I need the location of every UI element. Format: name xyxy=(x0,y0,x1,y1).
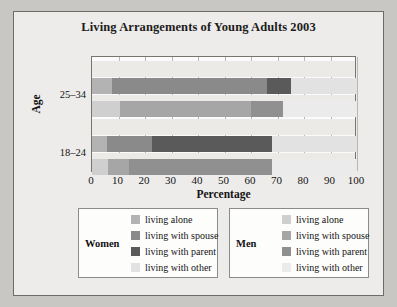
x-tick-60: 60 xyxy=(245,174,256,186)
legend-swatch-living-alone xyxy=(131,215,140,224)
bar-segment-living-with-parent xyxy=(129,159,272,175)
bar-segment-living-alone xyxy=(92,159,108,175)
legend-swatch-living-with-parent xyxy=(131,247,140,256)
plot-area xyxy=(91,56,356,172)
chart-figure: Living Arrangements of Young Adults 2003… xyxy=(13,11,384,296)
bar-18-24-men xyxy=(92,159,357,175)
y-tick-label-25-34: 25–34 xyxy=(42,89,86,100)
legend-label: living alone xyxy=(296,214,344,225)
y-tick-label-18-24: 18–24 xyxy=(42,147,86,158)
bar-segment-living-alone xyxy=(92,78,112,94)
legend-label: living with parent xyxy=(145,246,216,257)
x-tick-40: 40 xyxy=(192,174,203,186)
legend-label: living with other xyxy=(296,262,363,273)
bar-segment-living-with-other xyxy=(283,101,357,117)
legend-item: living with other xyxy=(282,260,369,275)
legend-label: living alone xyxy=(145,214,193,225)
x-tick-20: 20 xyxy=(139,174,150,186)
bar-segment-living-with-parent xyxy=(152,136,273,152)
legend-label: living with parent xyxy=(296,246,367,257)
row-band-2 xyxy=(92,119,355,135)
x-tick-70: 70 xyxy=(271,174,282,186)
legend-swatch-living-with-parent xyxy=(282,247,291,256)
legend-item: living with spouse xyxy=(282,228,369,243)
legend-swatch-living-with-spouse xyxy=(282,231,291,240)
bar-18-24-women xyxy=(92,136,357,152)
legend-label: living with spouse xyxy=(145,230,218,241)
bar-segment-living-with-spouse xyxy=(112,78,267,94)
x-tick-100: 100 xyxy=(348,174,365,186)
bar-25-34-men xyxy=(92,101,357,117)
legend-item: living with parent xyxy=(131,244,218,259)
bar-segment-living-with-other xyxy=(272,136,357,152)
legend-swatch-living-with-spouse xyxy=(131,231,140,240)
bar-segment-living-with-spouse xyxy=(107,136,152,152)
legend-swatch-living-with-other xyxy=(131,263,140,272)
legend-swatch-living-alone xyxy=(282,215,291,224)
bar-segment-living-with-other xyxy=(291,78,357,94)
legend-item: living alone xyxy=(282,212,369,227)
bar-segment-living-with-parent xyxy=(267,78,291,94)
legend-item: living with parent xyxy=(282,244,369,259)
bar-segment-living-alone xyxy=(92,101,120,117)
bar-segment-living-alone xyxy=(92,136,107,152)
legend-label: living with other xyxy=(145,262,212,273)
x-tick-0: 0 xyxy=(88,174,94,186)
page-title: Living Arrangements of Young Adults 2003 xyxy=(14,20,383,35)
legend-item: living with spouse xyxy=(131,228,218,243)
legend-label: living with spouse xyxy=(296,230,369,241)
bar-segment-living-with-parent xyxy=(251,101,283,117)
x-tick-30: 30 xyxy=(165,174,176,186)
legend-item: living alone xyxy=(131,212,218,227)
row-band-0 xyxy=(92,61,355,77)
legend-swatch-living-with-other xyxy=(282,263,291,272)
bar-segment-living-with-spouse xyxy=(108,159,129,175)
legend-men: Men living aloneliving with spouseliving… xyxy=(229,208,369,278)
x-tick-50: 50 xyxy=(218,174,229,186)
bar-segment-living-with-other xyxy=(272,159,357,175)
legend-women-items: living aloneliving with spouseliving wit… xyxy=(131,212,220,275)
legend-item: living with other xyxy=(131,260,218,275)
legend-men-heading: Men xyxy=(230,238,282,249)
x-tick-90: 90 xyxy=(324,174,335,186)
legend-women-heading: Women xyxy=(79,238,131,249)
x-axis-title: Percentage xyxy=(91,188,356,200)
bar-25-34-women xyxy=(92,78,357,94)
legend-women: Women living aloneliving with spouselivi… xyxy=(78,208,218,278)
y-axis-title: Age xyxy=(30,94,42,113)
x-tick-10: 10 xyxy=(112,174,123,186)
grid-line-100 xyxy=(357,57,358,171)
bar-segment-living-with-spouse xyxy=(120,101,251,117)
legend-men-items: living aloneliving with spouseliving wit… xyxy=(282,212,371,275)
x-tick-80: 80 xyxy=(298,174,309,186)
